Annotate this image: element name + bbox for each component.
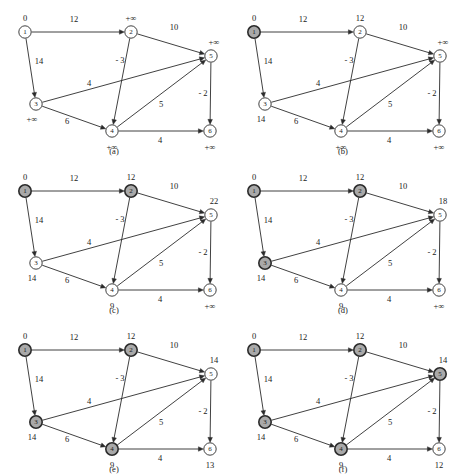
edge-weight-label: 6 (294, 116, 298, 126)
node-distance-label-3: 14 (257, 273, 266, 283)
edge-weight-label: 4 (87, 396, 92, 406)
graph-node-2[interactable]: 2+∞ (125, 13, 137, 38)
arrowhead-icon (199, 50, 204, 54)
node-distance-label-5: 18 (439, 196, 448, 206)
graph-node-6[interactable]: 6+∞ (204, 125, 216, 152)
arrowhead-icon (329, 443, 334, 447)
graph-node-5[interactable]: 5+∞ (205, 37, 220, 62)
graph-node-3[interactable]: 314 (257, 416, 271, 442)
arrowhead-icon (199, 209, 204, 213)
node-distance-label-1: 0 (23, 172, 27, 182)
edge-weight-label: - 3 (344, 373, 353, 383)
graph-node-2[interactable]: 212 (125, 331, 137, 356)
graph-node-1[interactable]: 10 (19, 331, 31, 356)
edge-2-to-5: 10 (366, 22, 433, 55)
node-id-label-6: 6 (208, 127, 212, 135)
node-distance-label-1: 0 (252, 331, 256, 341)
edge-weight-label: 4 (387, 294, 392, 304)
edge-4-to-6: 4 (119, 288, 204, 304)
edge-5-to-6: - 2 (198, 63, 212, 125)
node-id-label-3: 3 (34, 100, 38, 108)
graph-node-1[interactable]: 10 (19, 13, 31, 38)
edge-weight-label: 10 (170, 181, 179, 191)
node-id-label-5: 5 (209, 52, 213, 60)
edge-weight-label: 14 (35, 215, 44, 225)
edge-weight-label: 4 (316, 78, 321, 88)
node-id-label-1: 1 (252, 346, 256, 354)
edge-weight-label: 6 (294, 275, 298, 285)
graph-node-1[interactable]: 10 (248, 331, 260, 356)
edge-2-to-5: 10 (366, 181, 433, 214)
node-distance-label-1: 0 (23, 13, 27, 23)
node-distance-label-6: +∞ (205, 301, 216, 311)
graph-node-2[interactable]: 212 (354, 172, 366, 197)
graph-node-1[interactable]: 10 (248, 13, 260, 38)
graph-node-3[interactable]: 3+∞ (27, 98, 43, 124)
graph-node-2[interactable]: 212 (354, 331, 366, 356)
edge-1-to-3: 14 (26, 357, 44, 416)
panel-caption-c: (c) (109, 305, 119, 315)
edge-weight-label: 10 (399, 181, 408, 191)
arrowhead-icon (208, 437, 213, 442)
node-distance-label-3: 14 (257, 114, 266, 124)
edge-weight-label: 6 (65, 275, 69, 285)
graph-panel-f: 121410- 34654- 21021231449514612(f) (229, 318, 458, 476)
graph-node-5[interactable]: 514 (205, 355, 219, 380)
node-id-label-4: 4 (110, 286, 114, 294)
edge-weight-label: - 2 (198, 247, 207, 257)
node-distance-label-6: +∞ (205, 142, 216, 152)
node-id-label-4: 4 (110, 445, 114, 453)
graph-panel-d: 121410- 34654- 210212314495186+∞(d) (229, 159, 458, 317)
edge-weight-label: - 3 (115, 214, 124, 224)
graph-node-3[interactable]: 314 (28, 257, 42, 283)
graph-node-5[interactable]: 518 (434, 196, 447, 221)
graph-node-5[interactable]: 5+∞ (434, 37, 449, 62)
node-id-label-3: 3 (263, 418, 267, 426)
graph-node-6[interactable]: 612 (433, 443, 445, 470)
edge-1-to-3: 14 (255, 357, 273, 416)
node-id-label-5: 5 (438, 211, 442, 219)
graph-node-3[interactable]: 314 (28, 416, 42, 442)
arrowhead-icon (437, 278, 442, 283)
node-id-label-3: 3 (263, 100, 267, 108)
graph-node-3[interactable]: 314 (257, 98, 271, 124)
graph-node-5[interactable]: 522 (205, 196, 218, 221)
edge-1-to-3: 14 (255, 198, 273, 257)
edge-3-to-4: 6 (42, 424, 106, 447)
node-id-label-2: 2 (358, 28, 362, 36)
graph-node-1[interactable]: 10 (19, 172, 31, 197)
graph-node-6[interactable]: 6+∞ (433, 125, 445, 152)
graph-node-2[interactable]: 212 (125, 172, 137, 197)
graph-panel-e: 121410- 34654- 21021231449514613(e) (0, 318, 229, 476)
node-id-label-2: 2 (358, 187, 362, 195)
edge-weight-label: 12 (299, 332, 308, 342)
edge-5-to-6: - 2 (198, 381, 212, 443)
graph-node-1[interactable]: 10 (248, 172, 260, 197)
arrowhead-icon (261, 251, 266, 256)
edge-weight-label: 5 (159, 417, 163, 427)
node-distance-label-1: 0 (252, 172, 256, 182)
node-distance-label-6: +∞ (434, 142, 445, 152)
edge-1-to-2: 12 (261, 173, 354, 193)
node-id-label-6: 6 (437, 127, 441, 135)
graph-node-6[interactable]: 613 (204, 443, 216, 470)
node-id-label-5: 5 (438, 370, 442, 378)
graph-node-6[interactable]: 6+∞ (204, 284, 216, 311)
edge-4-to-6: 4 (348, 288, 433, 304)
arrowhead-icon (32, 251, 37, 256)
node-distance-label-1: 0 (23, 331, 27, 341)
graph-node-3[interactable]: 314 (257, 257, 271, 283)
edge-weight-label: 5 (159, 258, 163, 268)
node-id-label-1: 1 (23, 346, 27, 354)
arrowhead-icon (32, 92, 37, 97)
edge-2-to-4: - 3 (112, 197, 130, 283)
graph-node-5[interactable]: 514 (434, 355, 448, 380)
edge-2-to-4: - 3 (341, 356, 359, 442)
graph-node-2[interactable]: 212 (354, 13, 366, 38)
node-distance-label-5: +∞ (438, 37, 449, 47)
edge-5-to-6: - 2 (427, 63, 441, 125)
graph-node-6[interactable]: 6+∞ (433, 284, 445, 311)
node-id-label-6: 6 (437, 445, 441, 453)
node-id-label-2: 2 (358, 346, 362, 354)
edge-3-to-4: 6 (42, 106, 106, 129)
